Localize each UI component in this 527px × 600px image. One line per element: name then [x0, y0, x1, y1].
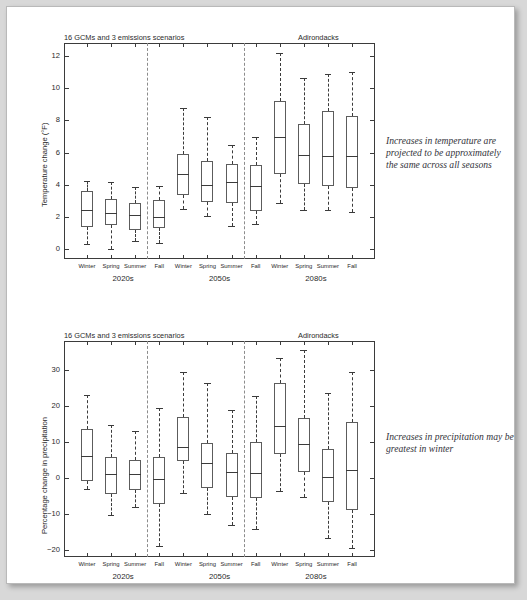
x-axis-tick-top — [280, 43, 281, 47]
boxplot-whisker-lower — [352, 188, 353, 212]
boxplot-whisker-upper — [207, 117, 208, 161]
boxplot-cap-lower — [300, 497, 307, 498]
boxplot-cap-upper — [300, 350, 307, 351]
boxplot-whisker-upper — [111, 182, 112, 199]
x-axis-tick-top — [207, 43, 208, 47]
boxplot-median — [201, 463, 213, 464]
y-axis-tick-right — [370, 249, 375, 250]
precipitation-boxplot-panel: −20−100102030WinterSpringSummerFallWinte… — [64, 341, 375, 557]
boxplot-whisker-upper — [256, 137, 257, 164]
x-axis-tick — [352, 553, 353, 557]
boxplot-cap-upper — [108, 425, 115, 426]
x-axis-tick-top — [304, 341, 305, 345]
boxplot-whisker-upper — [135, 187, 136, 202]
boxplot-whisker-lower — [111, 494, 112, 514]
boxplot-whisker-lower — [207, 202, 208, 217]
y-axis-tick-label: −10 — [30, 509, 60, 518]
y-axis-tick — [64, 120, 69, 121]
boxplot-box — [105, 457, 117, 494]
y-axis-tick-label: 10 — [30, 83, 60, 92]
x-axis-tick — [183, 553, 184, 557]
boxplot-cap-lower — [228, 226, 235, 227]
boxplot-whisker-lower — [87, 481, 88, 489]
x-axis-tick — [135, 553, 136, 557]
y-axis-tick-right — [370, 478, 375, 479]
x-axis-group-label: 2050s — [190, 572, 250, 581]
x-axis-tick-top — [256, 341, 257, 345]
boxplot-whisker-lower — [183, 195, 184, 210]
x-axis-tick — [280, 255, 281, 259]
y-axis-tick-right — [370, 406, 375, 407]
x-axis-tick-top — [352, 43, 353, 47]
y-axis-tick-right — [370, 56, 375, 57]
boxplot-cap-lower — [325, 538, 332, 539]
x-axis-tick-top — [280, 341, 281, 345]
y-axis-tick-right — [370, 442, 375, 443]
y-axis-tick-right — [370, 550, 375, 551]
boxplot-median — [250, 473, 262, 474]
boxplot-cap-lower — [108, 515, 115, 516]
y-axis-tick — [64, 478, 69, 479]
x-axis-tick — [232, 553, 233, 557]
y-axis-tick — [64, 442, 69, 443]
boxplot-whisker-upper — [280, 53, 281, 101]
boxplot-median — [105, 213, 117, 214]
y-axis-tick — [64, 514, 69, 515]
boxplot-cap-upper — [325, 74, 332, 75]
boxplot-whisker-upper — [304, 78, 305, 124]
group-divider — [147, 43, 148, 259]
y-axis-tick — [64, 153, 69, 154]
boxplot-box — [250, 442, 262, 498]
x-axis-tick-top — [232, 43, 233, 47]
boxplot-cap-upper — [204, 117, 211, 118]
x-axis-tick-top — [207, 341, 208, 345]
boxplot-median — [129, 215, 141, 216]
boxplot-cap-upper — [252, 396, 259, 397]
boxplot-whisker-upper — [232, 145, 233, 164]
x-axis-tick-top — [111, 43, 112, 47]
boxplot-cap-lower — [252, 224, 259, 225]
boxplot-cap-lower — [156, 243, 163, 244]
x-axis-tick-top — [87, 43, 88, 47]
x-axis-tick — [328, 553, 329, 557]
boxplot-whisker-upper — [159, 408, 160, 457]
x-axis-tick-top — [87, 341, 88, 345]
x-axis-tick-top — [328, 43, 329, 47]
x-axis-tick — [304, 553, 305, 557]
boxplot-cap-upper — [204, 383, 211, 384]
x-axis-tick-top — [159, 341, 160, 345]
boxplot-median — [346, 470, 358, 471]
x-axis-group-label: 2050s — [190, 274, 250, 283]
boxplot-cap-lower — [132, 241, 139, 242]
boxplot-cap-lower — [180, 209, 187, 210]
boxplot-cap-lower — [252, 529, 259, 530]
boxplot-whisker-lower — [232, 497, 233, 524]
boxplot-median — [226, 182, 238, 183]
boxplot-whisker-upper — [159, 186, 160, 200]
boxplot-whisker-lower — [87, 227, 88, 245]
y-axis-tick-right — [370, 153, 375, 154]
boxplot-median — [153, 217, 165, 218]
boxplot-whisker-upper — [87, 181, 88, 191]
boxplot-whisker-lower — [328, 186, 329, 209]
y-axis-tick — [64, 370, 69, 371]
temperature-supertitle-right: Adirondacks — [298, 33, 339, 42]
boxplot-cap-lower — [84, 489, 91, 490]
boxplot-whisker-upper — [256, 396, 257, 442]
boxplot-cap-upper — [228, 145, 235, 146]
x-axis-tick — [352, 255, 353, 259]
boxplot-cap-lower — [204, 216, 211, 217]
x-axis-tick — [111, 255, 112, 259]
boxplot-median — [81, 210, 93, 211]
group-divider — [147, 341, 148, 557]
boxplot-whisker-lower — [111, 225, 112, 249]
boxplot-box — [346, 422, 358, 510]
boxplot-cap-upper — [156, 186, 163, 187]
boxplot-median — [250, 186, 262, 187]
x-axis-tick-top — [256, 43, 257, 47]
x-axis-group-label: 2020s — [93, 274, 153, 283]
boxplot-cap-lower — [276, 203, 283, 204]
y-axis-tick-right — [370, 514, 375, 515]
boxplot-cap-upper — [180, 372, 187, 373]
y-axis-tick — [64, 185, 69, 186]
